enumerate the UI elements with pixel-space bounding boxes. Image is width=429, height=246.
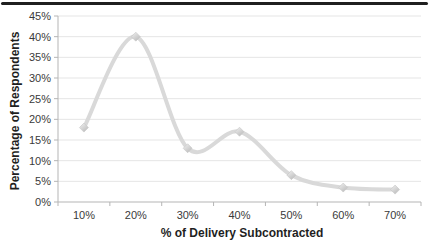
- data-point-markers: [79, 32, 399, 194]
- x-tick-label: 70%: [384, 209, 406, 221]
- x-tick-label: 60%: [332, 209, 354, 221]
- y-tick-label: 30%: [29, 72, 51, 84]
- data-point-marker: [339, 183, 348, 192]
- y-tick-label: 20%: [29, 113, 51, 125]
- x-tick-label: 10%: [73, 209, 95, 221]
- x-tick-label: 20%: [125, 209, 147, 221]
- y-tick-label: 0%: [35, 196, 51, 208]
- y-tick-label: 35%: [29, 51, 51, 63]
- x-axis-tick-labels: 10%20%30%40%50%60%70%: [73, 209, 406, 221]
- y-tick-label: 5%: [35, 175, 51, 187]
- y-axis-title: Percentage of Respondents: [8, 31, 22, 190]
- y-axis-tick-labels: 0%5%10%15%20%25%30%35%40%45%: [29, 10, 51, 208]
- y-tick-label: 40%: [29, 31, 51, 43]
- y-tick-label: 15%: [29, 134, 51, 146]
- series-line: [84, 37, 395, 190]
- line-chart: 0%5%10%15%20%25%30%35%40%45% 10%20%30%40…: [0, 0, 429, 246]
- chart-figure: 0%5%10%15%20%25%30%35%40%45% 10%20%30%40…: [0, 0, 429, 246]
- x-tick-label: 50%: [280, 209, 302, 221]
- gridlines: [58, 16, 421, 181]
- x-axis-title: % of Delivery Subcontracted: [161, 226, 324, 240]
- axes: [54, 16, 421, 206]
- x-tick-label: 40%: [228, 209, 250, 221]
- y-tick-label: 10%: [29, 155, 51, 167]
- x-tick-label: 30%: [177, 209, 199, 221]
- data-point-marker: [391, 185, 400, 194]
- y-tick-label: 25%: [29, 93, 51, 105]
- y-tick-label: 45%: [29, 10, 51, 22]
